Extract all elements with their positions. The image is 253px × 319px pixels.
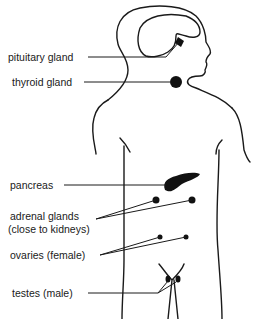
- testis-right: [176, 276, 181, 283]
- pituitary-gland-label: pituitary gland: [8, 51, 73, 63]
- right-torso-outline: [216, 140, 222, 319]
- testes-label: testes (male): [12, 287, 73, 299]
- endocrine-diagram: pituitary gland thyroid gland pancreas a…: [0, 0, 253, 319]
- pancreas-label: pancreas: [10, 179, 53, 191]
- thyroid-gland-label: thyroid gland: [12, 76, 72, 88]
- left-shoulder-outline: [93, 100, 108, 154]
- pancreas-shape: [164, 173, 200, 192]
- adrenal-glands-label: adrenal glands: [10, 210, 79, 222]
- groin-outline: [159, 264, 184, 319]
- thyroid-gland-shape: [170, 76, 182, 88]
- left-torso-outline: [120, 138, 130, 319]
- brain-outline: [138, 15, 200, 57]
- testes-leader-line: [88, 281, 176, 293]
- ovaries-label: ovaries (female): [10, 249, 85, 261]
- right-shoulder-outline: [232, 108, 250, 162]
- pituitary-leader-line: [88, 42, 179, 57]
- adrenal-leader-lines: [96, 200, 192, 219]
- body-outline-figure: [0, 0, 253, 319]
- adrenal-glands-sublabel: (close to kidneys): [8, 223, 90, 235]
- ovaries-leader-lines: [100, 237, 186, 255]
